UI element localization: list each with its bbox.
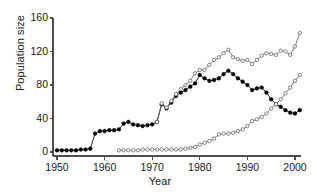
y-tick-label: 80 (22, 78, 48, 90)
x-tick-label: 2000 (275, 161, 315, 173)
series-open-circles-upper (155, 31, 301, 123)
y-tick-label: 0 (22, 145, 48, 157)
x-tick-label: 1970 (132, 161, 172, 173)
series-open-circles-lower (117, 73, 301, 152)
y-tick-label: 160 (22, 11, 48, 23)
series-filled-circles (55, 69, 301, 152)
x-tick-label: 1960 (85, 161, 125, 173)
x-tick-label: 1980 (180, 161, 220, 173)
y-tick-label: 40 (22, 112, 48, 124)
x-tick-label: 1950 (37, 161, 77, 173)
chart-figure: Population size Year 04080120160 1950196… (0, 0, 317, 195)
y-tick-label: 120 (22, 45, 48, 57)
x-axis-title: Year (110, 175, 210, 187)
x-tick-label: 1990 (227, 161, 267, 173)
series-layer (55, 31, 301, 152)
